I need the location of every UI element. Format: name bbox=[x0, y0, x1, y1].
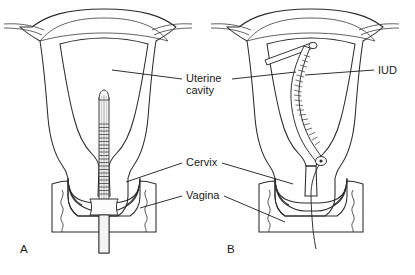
iud-string-eyelet bbox=[319, 159, 322, 162]
label-uterine-cavity-line1: Uterine bbox=[186, 72, 221, 84]
iud-insertion-figure: A bbox=[0, 0, 415, 275]
inserter-graduations-a bbox=[99, 124, 109, 194]
figure-background bbox=[0, 0, 415, 275]
label-cervix: Cervix bbox=[186, 156, 218, 168]
panel-label-b: B bbox=[227, 243, 235, 255]
label-vagina: Vagina bbox=[186, 189, 220, 201]
label-uterine-cavity-line2: cavity bbox=[186, 84, 215, 96]
inserter-flange-a bbox=[90, 199, 118, 215]
inserter-shaft-lower-a bbox=[99, 215, 109, 253]
label-iud: IUD bbox=[378, 64, 397, 76]
panel-label-a: A bbox=[20, 243, 28, 255]
figure-canvas: A bbox=[0, 0, 415, 275]
